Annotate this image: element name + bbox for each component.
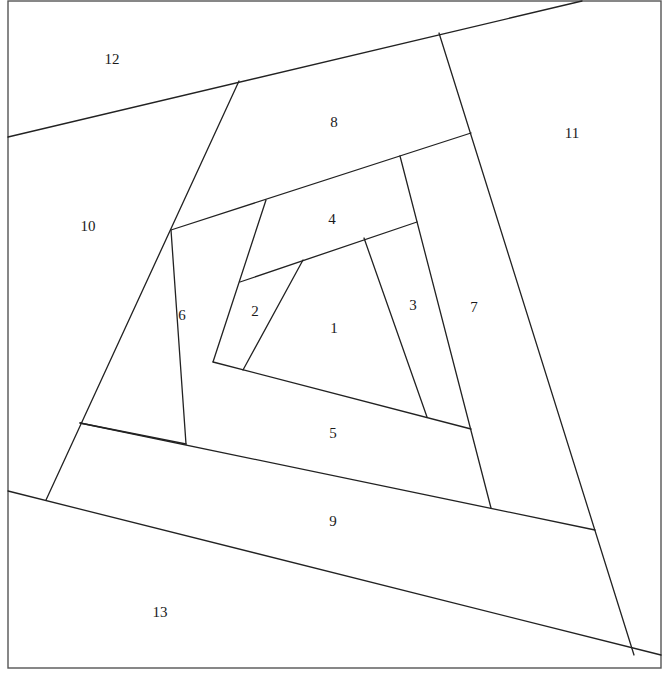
piece-label-5: 5 <box>329 425 337 441</box>
piece-label-11: 11 <box>565 125 579 141</box>
quilt-block-diagram: 1 2 3 4 5 6 7 8 9 10 11 12 13 <box>0 0 671 674</box>
seam-line <box>8 1 582 137</box>
piece-label-4: 4 <box>328 211 336 227</box>
piece-label-10: 10 <box>81 218 96 234</box>
seam-line <box>80 423 595 530</box>
piece-label-1: 1 <box>330 320 338 336</box>
seam-line <box>439 33 634 655</box>
piece-label-3: 3 <box>409 297 417 313</box>
piece-label-9: 9 <box>329 513 337 529</box>
piece-label-12: 12 <box>105 51 120 67</box>
seam-line <box>213 200 266 362</box>
seam-line <box>171 230 186 444</box>
piece-label-7: 7 <box>470 299 478 315</box>
piece-label-8: 8 <box>330 114 338 130</box>
seam-line <box>400 156 491 508</box>
piece-label-13: 13 <box>153 604 168 620</box>
seam-line <box>213 362 471 429</box>
seam-line <box>46 81 239 500</box>
piece-label-6: 6 <box>178 307 186 323</box>
seam-line <box>171 133 471 230</box>
seam-line <box>240 222 417 282</box>
seam-line <box>364 238 427 417</box>
piece-label-2: 2 <box>251 303 259 319</box>
